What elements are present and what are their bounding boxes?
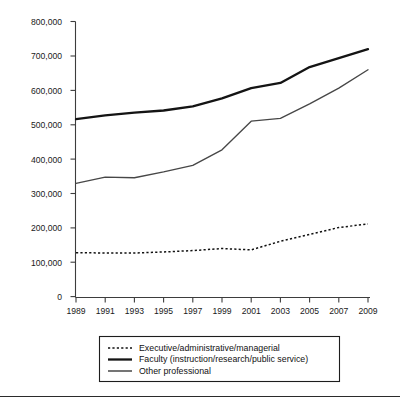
x-tick-label: 2005 — [300, 306, 319, 316]
series-line-faculty — [76, 49, 368, 119]
legend-label-other-professional: Other professional — [139, 366, 211, 376]
y-tick-label: 100,000 — [31, 258, 62, 268]
x-tick-label: 1995 — [154, 306, 173, 316]
x-tick-label: 1989 — [66, 306, 85, 316]
series-line-executive — [76, 224, 368, 253]
y-axis — [71, 22, 76, 298]
series-line-other-professional — [76, 70, 368, 184]
y-tick-label: 500,000 — [31, 120, 62, 130]
line-chart: 800,000 700,000 600,000 500,000 400,000 … — [0, 0, 400, 404]
legend-label-faculty: Faculty (instruction/research/public ser… — [139, 354, 308, 364]
x-tick-label: 2003 — [271, 306, 290, 316]
x-axis-tick-labels: 1989 1991 1993 1995 1997 1999 2001 2003 … — [66, 306, 377, 316]
y-tick-label: 0 — [57, 292, 62, 302]
x-axis — [76, 298, 371, 303]
y-tick-label: 800,000 — [31, 17, 62, 27]
y-tick-label: 600,000 — [31, 86, 62, 96]
legend-item-faculty[interactable]: Faculty (instruction/research/public ser… — [108, 354, 308, 364]
x-tick-label: 2009 — [358, 306, 377, 316]
y-axis-tick-labels: 800,000 700,000 600,000 500,000 400,000 … — [31, 17, 62, 302]
x-tick-label: 1997 — [183, 306, 202, 316]
y-tick-label: 300,000 — [31, 189, 62, 199]
y-tick-label: 400,000 — [31, 155, 62, 165]
legend-label-executive: Executive/administrative/managerial — [139, 343, 280, 353]
x-tick-label: 2007 — [329, 306, 348, 316]
y-tick-label: 200,000 — [31, 223, 62, 233]
x-tick-label: 1993 — [125, 306, 144, 316]
x-tick-label: 2001 — [242, 306, 261, 316]
chart-figure: 800,000 700,000 600,000 500,000 400,000 … — [0, 0, 400, 404]
plot-series-group — [76, 49, 368, 253]
x-tick-label: 1991 — [96, 306, 115, 316]
y-tick-label: 700,000 — [31, 51, 62, 61]
legend: Executive/administrative/managerial Facu… — [100, 337, 340, 382]
x-tick-label: 1999 — [212, 306, 231, 316]
